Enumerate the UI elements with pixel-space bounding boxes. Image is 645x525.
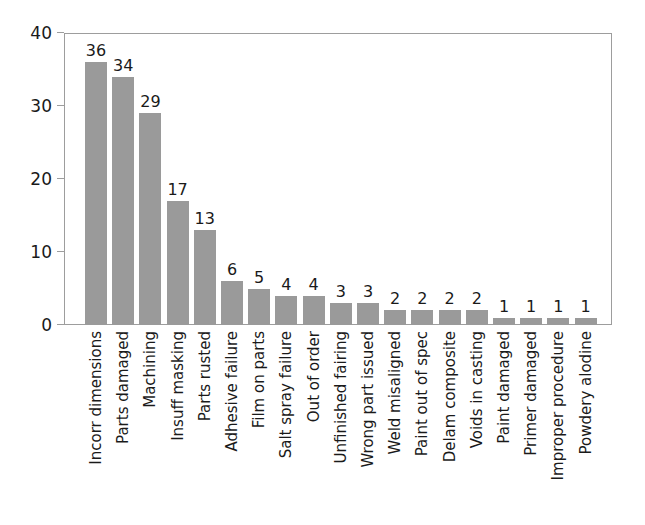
bar-group: 2 [411, 33, 433, 325]
y-axis: 010203040 [0, 0, 64, 525]
x-axis-category-label-text: Primer damaged [524, 331, 539, 456]
y-axis-tick-mark [57, 251, 64, 252]
bar [112, 77, 134, 325]
bar-value-label: 29 [130, 93, 170, 111]
x-axis-category-label: Primer damaged [520, 331, 542, 521]
bar [221, 281, 243, 325]
y-axis-tick-mark [57, 32, 64, 33]
y-axis-tick-mark [57, 105, 64, 106]
bar-group: 1 [493, 33, 515, 325]
bar [411, 310, 433, 325]
bar-group: 2 [466, 33, 488, 325]
bar-group: 34 [112, 33, 134, 325]
y-axis-tick-label: 40 [30, 21, 52, 45]
x-axis-category-label-text: Adhesive failure [225, 331, 240, 452]
bar [575, 318, 597, 325]
x-axis-category-label: Out of order [303, 331, 325, 521]
x-axis-category-label: Parts rusted [194, 331, 216, 521]
x-axis-category-label-text: Wrong part issued [361, 331, 376, 468]
x-axis-category-label-text: Parts damaged [116, 331, 131, 444]
bar-group: 1 [575, 33, 597, 325]
bar-value-label: 17 [158, 181, 198, 199]
bar-value-label: 1 [566, 298, 606, 316]
x-axis-category-label: Incorr dimensions [85, 331, 107, 521]
bar-group: 17 [167, 33, 189, 325]
bar [85, 62, 107, 325]
bar-group: 13 [194, 33, 216, 325]
x-axis-category-label: Salt spray failure [275, 331, 297, 521]
bar [330, 303, 352, 325]
y-axis-tick-label: 0 [41, 313, 52, 337]
x-axis-category-label: Weld misaligned [384, 331, 406, 521]
x-axis-category-label: Wrong part issued [357, 331, 379, 521]
x-axis-category-label-text: Unfinished fairing [333, 331, 348, 463]
bar-group: 29 [139, 33, 161, 325]
x-axis-category-label: Film on parts [248, 331, 270, 521]
x-axis-category-label-text: Salt spray failure [279, 331, 294, 458]
x-axis-category-labels: Incorr dimensionsParts damagedMachiningI… [64, 331, 612, 525]
bar [439, 310, 461, 325]
x-axis-category-label-text: Out of order [306, 331, 321, 422]
x-axis-category-label: Improper procedure [547, 331, 569, 521]
bar-value-label: 13 [185, 210, 225, 228]
x-axis-category-label: Paint out of spec [411, 331, 433, 521]
x-axis-category-label: Delam composite [439, 331, 461, 521]
x-axis-category-label-text: Machining [143, 331, 158, 408]
bar-group: 1 [520, 33, 542, 325]
x-axis-category-label: Voids in casting [466, 331, 488, 521]
bar [139, 113, 161, 325]
x-axis-category-label-text: Voids in casting [469, 331, 484, 448]
bar-group: 4 [303, 33, 325, 325]
x-axis-category-label: Adhesive failure [221, 331, 243, 521]
x-axis-category-label: Machining [139, 331, 161, 521]
x-axis-category-label-text: Paint damaged [497, 331, 512, 444]
x-axis-category-label-text: Parts rusted [197, 331, 212, 421]
x-axis-category-label-text: Incorr dimensions [89, 331, 104, 465]
x-axis-category-label-text: Improper procedure [551, 331, 566, 480]
bar [275, 296, 297, 325]
bar [248, 289, 270, 326]
bar-group: 1 [547, 33, 569, 325]
bar [520, 318, 542, 325]
y-axis-tick-label: 20 [30, 167, 52, 191]
x-axis-category-label: Unfinished fairing [330, 331, 352, 521]
bar [493, 318, 515, 325]
bar [384, 310, 406, 325]
bar [547, 318, 569, 325]
x-axis-category-label-text: Delam composite [442, 331, 457, 462]
x-axis-category-label: Powdery alodine [575, 331, 597, 521]
bars-layer: 363429171365443322221111 [64, 33, 612, 325]
bar-group: 2 [439, 33, 461, 325]
x-axis-category-label-text: Insuff masking [170, 331, 185, 441]
y-axis-tick-mark [57, 324, 64, 325]
bar-group: 2 [384, 33, 406, 325]
bar-chart: 010203040 363429171365443322221111 Incor… [0, 0, 645, 525]
bar-group: 3 [330, 33, 352, 325]
x-axis-category-label-text: Paint out of spec [415, 331, 430, 456]
x-axis-category-label: Parts damaged [112, 331, 134, 521]
x-axis-category-label: Paint damaged [493, 331, 515, 521]
bar-group: 3 [357, 33, 379, 325]
x-axis-category-label: Insuff masking [167, 331, 189, 521]
bar-value-label: 34 [103, 57, 143, 75]
bar-group: 36 [85, 33, 107, 325]
y-axis-tick-mark [57, 178, 64, 179]
y-axis-tick-label: 30 [30, 94, 52, 118]
x-axis-category-label-text: Film on parts [252, 331, 267, 428]
x-axis-category-label-text: Weld misaligned [388, 331, 403, 455]
y-axis-tick-label: 10 [30, 240, 52, 264]
x-axis-category-label-text: Powdery alodine [578, 331, 593, 454]
